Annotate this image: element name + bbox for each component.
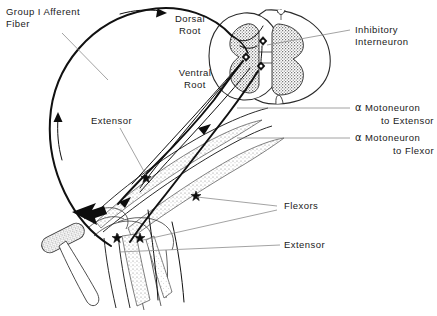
patellar-tendon	[122, 234, 150, 306]
leader-flexors-upper	[197, 197, 277, 206]
label-ventral-root-line1: Ventral	[179, 67, 212, 78]
afferent-direction-line-left	[58, 118, 62, 160]
label-extensor-upper: Extensor	[91, 115, 132, 126]
diagram-canvas: Group I Afferent Fiber Dorsal Root Ventr…	[0, 0, 437, 316]
label-inhibitory-interneuron-line1: Inhibitory	[355, 24, 398, 35]
label-alpha-symbol-extensor: α	[355, 102, 362, 113]
stretch-reflex-diagram: Group I Afferent Fiber Dorsal Root Ventr…	[0, 0, 437, 316]
tibia-anterior	[104, 238, 116, 308]
leader-extensor-right	[119, 245, 280, 252]
label-alpha-symbol-flexor: α	[355, 132, 362, 143]
leader-extensor-upper	[120, 128, 146, 175]
extensor-muscle-belly	[96, 120, 262, 228]
thigh-lower-contour	[103, 126, 272, 232]
label-ventral-root-line2: Root	[184, 79, 206, 90]
label-group-i-afferent-line2: Fiber	[6, 18, 30, 29]
label-alpha-motoneuron-extensor-line1: Motoneuron	[365, 102, 420, 113]
afferent-arrow-right	[156, 9, 167, 18]
hammer-handle	[59, 241, 99, 306]
leader-group-i-afferent	[62, 33, 108, 80]
label-dorsal-root-line2: Root	[179, 25, 201, 36]
reflex-hammer	[39, 203, 107, 306]
afferent-arrow-up	[54, 112, 63, 122]
label-dorsal-root-line1: Dorsal	[175, 13, 205, 24]
label-alpha-motoneuron-flexor-line2: to Flexor	[393, 145, 434, 156]
nerve-descending-leg-b	[172, 222, 184, 302]
spinal-cord-cross-section	[209, 9, 330, 104]
label-alpha-motoneuron-extensor-line2: to Extensor	[381, 115, 434, 126]
label-alpha-motoneuron-flexor-line1: Motoneuron	[365, 132, 420, 143]
label-flexors-right: Flexors	[284, 200, 318, 211]
flexor-tendon	[146, 236, 172, 298]
muscle-spindle-tendon-lower	[112, 233, 122, 243]
label-extensor-right: Extensor	[284, 239, 325, 250]
label-inhibitory-interneuron-line2: Interneuron	[355, 36, 409, 47]
label-group-i-afferent-line1: Group I Afferent	[6, 6, 80, 17]
